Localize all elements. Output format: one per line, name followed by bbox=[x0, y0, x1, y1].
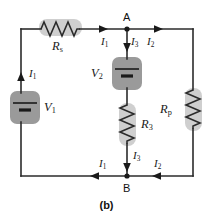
component-label-v2-text: V bbox=[91, 66, 99, 80]
current-label-i3-top: I3 bbox=[131, 36, 138, 49]
circuit-schematic bbox=[0, 0, 213, 219]
current-label-i3-bottom-sub: 3 bbox=[137, 155, 141, 163]
highlight-v1 bbox=[10, 91, 40, 124]
component-label-v2: V2 bbox=[91, 67, 103, 81]
current-label-i1-top: I1 bbox=[101, 36, 108, 49]
component-label-rs-sub: s bbox=[60, 45, 63, 54]
arrow-i1-left bbox=[17, 72, 25, 81]
current-label-i3-top-sub: 3 bbox=[135, 41, 139, 49]
component-label-v2-sub: 2 bbox=[99, 72, 103, 81]
current-label-i2-top-sub: 2 bbox=[151, 41, 155, 49]
component-label-r3-sub: 3 bbox=[149, 123, 153, 132]
node-label-a: A bbox=[123, 12, 130, 23]
current-label-i3-bottom: I3 bbox=[133, 150, 140, 163]
current-label-i2-bottom-sub: 2 bbox=[158, 163, 162, 171]
current-label-i2-top: I2 bbox=[147, 36, 154, 49]
arrow-i3-top bbox=[123, 43, 131, 52]
junction-dot-b bbox=[124, 173, 129, 178]
component-label-rp: Rp bbox=[160, 103, 172, 117]
arrow-i1-top bbox=[99, 25, 108, 33]
highlight-v2 bbox=[112, 57, 142, 90]
component-label-rs-text: R bbox=[52, 39, 60, 53]
component-label-r3-text: R bbox=[141, 117, 149, 131]
current-label-i1-left: I1 bbox=[29, 68, 36, 81]
component-label-v1-text: V bbox=[44, 100, 52, 114]
component-label-rs: Rs bbox=[52, 40, 63, 54]
current-label-i1-left-sub: 1 bbox=[33, 73, 37, 81]
current-label-i1-bottom: I1 bbox=[99, 158, 106, 171]
arrow-i1-bottom bbox=[90, 172, 99, 180]
figure-caption: (b) bbox=[0, 200, 213, 211]
arrow-i3-bottom bbox=[123, 163, 131, 172]
current-label-i1-top-sub: 1 bbox=[105, 41, 109, 49]
current-label-i1-bottom-sub: 1 bbox=[103, 163, 107, 171]
node-label-b: B bbox=[123, 183, 130, 194]
current-label-i2-bottom: I2 bbox=[154, 158, 161, 171]
component-label-rp-text: R bbox=[160, 102, 168, 116]
component-label-rp-sub: p bbox=[168, 108, 172, 117]
circuit-diagram-figure: A B Rs V1 V2 R3 Rp I1 I1 I3 I2 I3 I1 I2 … bbox=[0, 0, 213, 219]
component-label-v1-sub: 1 bbox=[52, 106, 56, 115]
arrow-i2-top bbox=[154, 25, 163, 33]
component-label-v1: V1 bbox=[44, 101, 56, 115]
arrow-i2-bottom bbox=[152, 172, 161, 180]
junction-dot-a bbox=[124, 26, 129, 31]
component-label-r3: R3 bbox=[141, 118, 153, 132]
